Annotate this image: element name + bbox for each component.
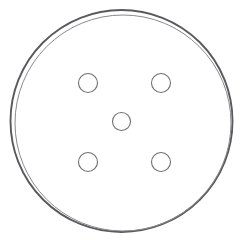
product-line-drawing-figure: Brake Drum (0, 0, 243, 249)
drawing-background (0, 0, 243, 249)
brake-drum-drawing (0, 0, 243, 249)
